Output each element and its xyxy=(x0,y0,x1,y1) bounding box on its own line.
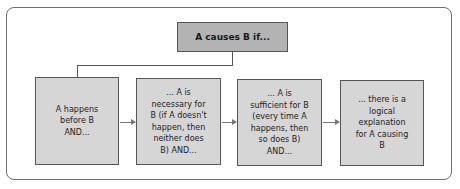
connector-vertical-title xyxy=(232,52,233,66)
title-box: A causes B if... xyxy=(177,22,288,52)
arrow-icon xyxy=(120,122,135,123)
step-box-2: ... A is necessary for B (if A doesn't h… xyxy=(136,78,221,165)
arrow-icon xyxy=(222,122,236,123)
step-label: ... there is a logical explanation for A… xyxy=(356,94,408,152)
step-label: ... A is necessary for B (if A doesn't h… xyxy=(150,87,206,156)
step-label: A happens before B AND... xyxy=(56,104,98,139)
step-box-1: A happens before B AND... xyxy=(35,77,119,165)
title-label: A causes B if... xyxy=(195,32,270,42)
arrow-icon xyxy=(323,122,339,123)
step-box-3: ... A is sufficient for B (every time A … xyxy=(237,79,322,166)
step-label: ... A is sufficient for B (every time A … xyxy=(250,88,308,157)
connector-vertical-step1 xyxy=(77,65,78,77)
connector-horizontal xyxy=(77,65,233,66)
step-box-4: ... there is a logical explanation for A… xyxy=(340,80,424,166)
